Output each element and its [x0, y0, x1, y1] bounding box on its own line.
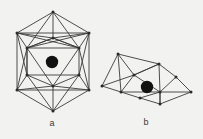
polyhedron-vertex — [88, 32, 91, 35]
polyhedron-vertex — [78, 47, 81, 50]
polyhedron-vertex — [101, 85, 104, 88]
polyhedron-vertex — [120, 91, 123, 94]
polyhedron-vertex — [16, 32, 19, 35]
polyhedron-vertex — [26, 74, 29, 77]
polyhedron-vertex — [88, 89, 91, 92]
polyhedron-vertex — [158, 63, 161, 66]
panel-b-label: b — [143, 117, 148, 127]
figure-container: a b — [0, 0, 203, 139]
polyhedron-vertex — [175, 76, 178, 79]
polyhedron-vertex — [52, 11, 55, 14]
center-atom — [46, 56, 58, 68]
polyhedron-vertex — [159, 91, 162, 94]
polyhedron-vertex — [139, 97, 142, 100]
polyhedron-vertex — [190, 91, 193, 94]
polyhedron-vertex — [26, 47, 29, 50]
polyhedron-vertex — [52, 110, 55, 113]
panel-a-label: a — [49, 118, 54, 128]
polyhedron-vertex — [78, 74, 81, 77]
polyhedron-vertex — [117, 53, 120, 56]
polyhedron-vertex — [52, 85, 55, 88]
polyhedron-vertex — [133, 74, 136, 77]
figure-background — [0, 0, 203, 139]
polyhedron-vertex — [16, 89, 19, 92]
polyhedra-figure: a b — [0, 0, 203, 139]
center-atom — [141, 81, 153, 93]
polyhedron-vertex — [159, 103, 162, 106]
polyhedron-vertex — [52, 37, 55, 40]
